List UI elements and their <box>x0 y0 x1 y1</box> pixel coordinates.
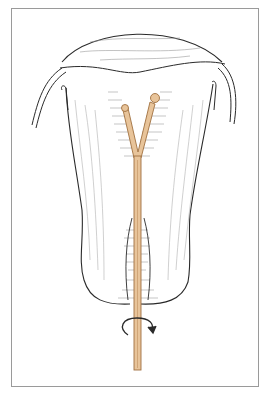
uterine-fundus <box>60 34 225 73</box>
uterus-illustration <box>0 0 268 397</box>
right-fallopian-tube <box>212 64 236 124</box>
left-fallopian-tube <box>32 68 68 128</box>
